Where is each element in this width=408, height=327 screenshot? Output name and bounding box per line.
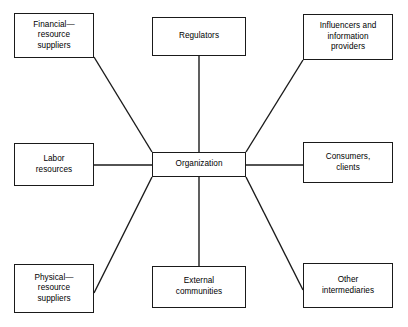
node-physical-resource-suppliers: Physical— resource suppliers bbox=[14, 264, 94, 313]
node-label-line: providers bbox=[331, 42, 365, 53]
connector-organization-to-other-intermediaries bbox=[246, 177, 303, 290]
node-financial-resource-suppliers: Financial— resource suppliers bbox=[14, 13, 94, 58]
node-label-line: communities bbox=[176, 287, 223, 298]
node-label-line: clients bbox=[336, 163, 360, 174]
node-labor-resources: Labor resources bbox=[14, 143, 94, 186]
node-label-line: External bbox=[184, 276, 214, 287]
organization-stakeholder-diagram: Financial— resource suppliers Regulators… bbox=[0, 0, 408, 327]
node-label-line: intermediaries bbox=[322, 286, 374, 297]
node-label-line: Labor bbox=[43, 154, 64, 165]
node-regulators: Regulators bbox=[152, 17, 246, 56]
node-label-line: information bbox=[327, 32, 368, 43]
node-label-line: Financial— bbox=[33, 20, 74, 31]
node-influencers-and-information-providers: Influencers and information providers bbox=[303, 14, 393, 60]
connector-organization-to-physical-resource-suppliers bbox=[94, 177, 152, 293]
node-label-line: suppliers bbox=[37, 41, 70, 52]
node-label-line: suppliers bbox=[37, 294, 70, 305]
node-label-line: Organization bbox=[175, 159, 222, 170]
node-other-intermediaries: Other intermediaries bbox=[303, 263, 393, 308]
node-label-line: Influencers and bbox=[320, 21, 377, 32]
node-label-line: resources bbox=[36, 165, 72, 176]
connector-organization-to-influencers-and-information-providers bbox=[246, 60, 303, 152]
node-label-line: Other bbox=[338, 275, 359, 286]
node-organization: Organization bbox=[152, 152, 246, 177]
node-external-communities: External communities bbox=[152, 266, 246, 308]
node-label-line: Physical— bbox=[34, 273, 73, 284]
node-label-line: Regulators bbox=[179, 31, 219, 42]
node-label-line: resource bbox=[38, 30, 70, 41]
connector-organization-to-financial-resource-suppliers bbox=[94, 57, 152, 152]
node-label-line: Consumers, bbox=[326, 152, 371, 163]
node-label-line: resource bbox=[38, 283, 70, 294]
node-consumers-clients: Consumers, clients bbox=[303, 142, 393, 183]
